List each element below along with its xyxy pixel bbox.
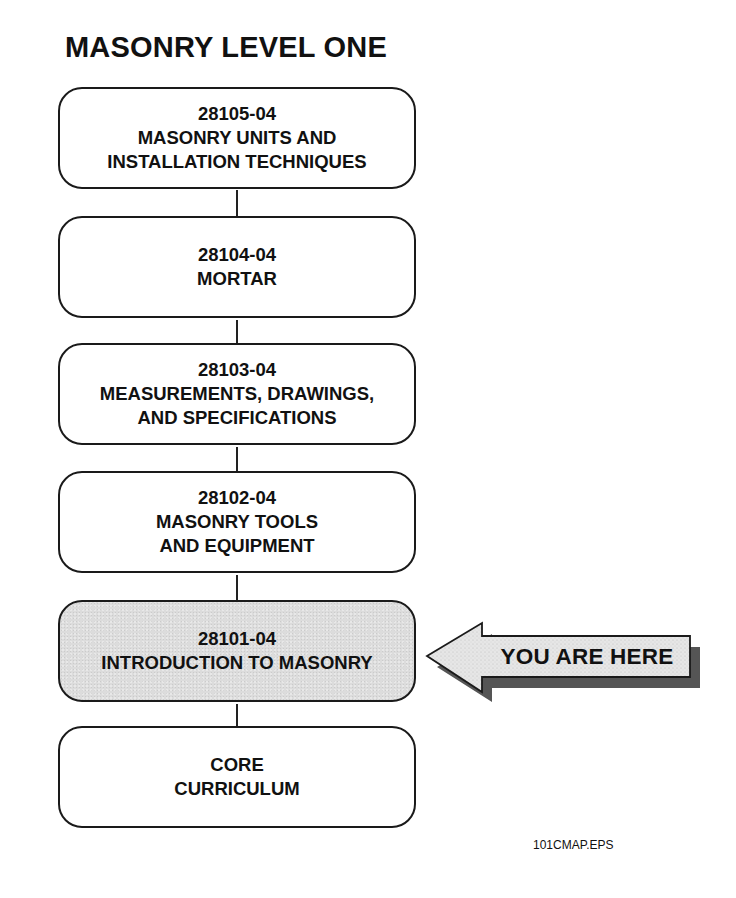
file-name-label: 101CMAP.EPS [533,838,614,852]
module-box-core-curriculum: CORE CURRICULUM [58,726,416,828]
module-title-line: CURRICULUM [174,777,299,801]
module-title-line: INTRODUCTION TO MASONRY [101,651,372,675]
module-title-line: AND EQUIPMENT [159,534,314,558]
module-title-line: MASONRY UNITS AND [138,126,337,150]
module-title-line: MORTAR [197,267,277,291]
module-title-line: CORE [210,753,263,777]
module-box-28103: 28103-04 MEASUREMENTS, DRAWINGS, AND SPE… [58,343,416,445]
module-title-line: MEASUREMENTS, DRAWINGS, [100,382,374,406]
module-box-28101-current: 28101-04 INTRODUCTION TO MASONRY [58,600,416,702]
connector-line [236,704,238,726]
module-code: 28102-04 [198,486,276,510]
connector-line [236,447,238,471]
module-box-28105: 28105-04 MASONRY UNITS AND INSTALLATION … [58,87,416,189]
connector-line [236,575,238,600]
connector-line [236,190,238,216]
module-box-28102: 28102-04 MASONRY TOOLS AND EQUIPMENT [58,471,416,573]
module-code: 28101-04 [198,627,276,651]
connector-line [236,320,238,343]
diagram-title: MASONRY LEVEL ONE [65,30,387,64]
module-box-28104: 28104-04 MORTAR [58,216,416,318]
module-code: 28104-04 [198,243,276,267]
module-title-line: MASONRY TOOLS [156,510,318,534]
you-are-here-label: YOU ARE HERE [487,640,687,674]
module-code: 28105-04 [198,102,276,126]
module-title-line: INSTALLATION TECHNIQUES [107,150,366,174]
module-code: 28103-04 [198,358,276,382]
module-title-line: AND SPECIFICATIONS [137,406,336,430]
